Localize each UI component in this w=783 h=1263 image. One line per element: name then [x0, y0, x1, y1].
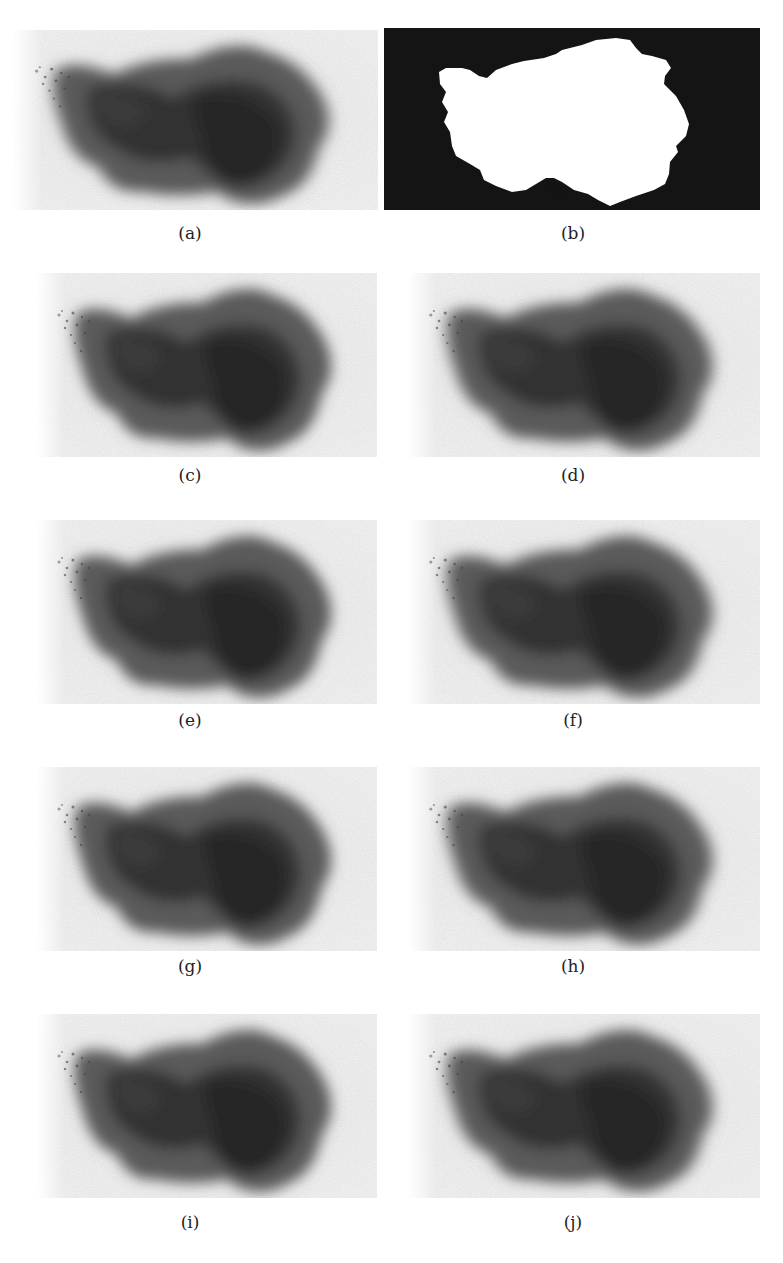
panel-label-j: (j)	[513, 1212, 633, 1232]
panel-h-lesion	[408, 767, 760, 951]
panel-e-lesion	[37, 520, 377, 704]
panel-b-segmentation-mask	[384, 28, 760, 210]
panel-label-h: (h)	[513, 956, 633, 976]
lesion-image	[408, 1014, 760, 1198]
panel-label-i: (i)	[130, 1212, 250, 1232]
panel-a-original-lesion	[13, 30, 378, 210]
panel-i-lesion	[37, 1014, 377, 1198]
lesion-image	[37, 520, 377, 704]
lesion-image	[37, 767, 377, 951]
panel-label-c: (c)	[130, 465, 250, 485]
panel-j-lesion	[408, 1014, 760, 1198]
panel-d-lesion	[408, 273, 760, 457]
panel-f-lesion	[408, 520, 760, 704]
panel-c-lesion	[37, 273, 377, 457]
panel-label-f: (f)	[513, 710, 633, 730]
panel-label-d: (d)	[513, 465, 633, 485]
lesion-image	[37, 1014, 377, 1198]
lesion-image	[408, 767, 760, 951]
panel-label-a: (a)	[130, 223, 250, 243]
lesion-image	[408, 520, 760, 704]
lesion-image	[13, 30, 378, 210]
panel-g-lesion	[37, 767, 377, 951]
binary-mask-image	[384, 28, 760, 210]
lesion-image	[408, 273, 760, 457]
panel-label-g: (g)	[130, 956, 250, 976]
lesion-image	[37, 273, 377, 457]
panel-label-b: (b)	[513, 223, 633, 243]
panel-label-e: (e)	[130, 710, 250, 730]
